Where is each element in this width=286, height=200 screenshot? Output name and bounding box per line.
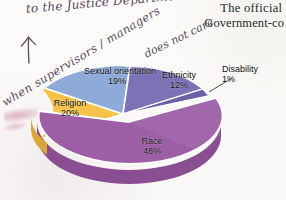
handwritten-note-justice-department: to the Justice Department ) bbox=[25, 0, 197, 16]
printed-line-1: The official bbox=[204, 1, 284, 16]
printed-line-2: Government-co bbox=[204, 16, 284, 31]
disability-leader-line bbox=[209, 78, 232, 92]
pie-chart: Sexual orientation 19% Ethnicity 12% Rel… bbox=[0, 48, 286, 200]
pie-chart-svg bbox=[0, 48, 286, 200]
printed-paragraph: The official Government-co bbox=[204, 1, 284, 32]
scanned-page: The official Government-co to the Justic… bbox=[0, 0, 286, 200]
